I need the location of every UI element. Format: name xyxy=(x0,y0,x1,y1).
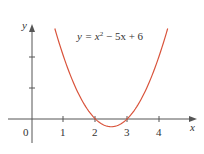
equation-lhs: y = x xyxy=(76,30,100,42)
equation-rhs: − 5x + 6 xyxy=(103,30,143,42)
y-axis-arrow-icon xyxy=(29,24,35,32)
x-tick-label-3: 3 xyxy=(124,126,130,138)
parabola-curve xyxy=(55,29,168,127)
x-tick-label-2: 2 xyxy=(92,126,98,138)
origin-label: 0 xyxy=(23,126,29,138)
parabola-chart: 0 1 2 3 4 x y y = x2 − 5x + 6 xyxy=(0,0,204,154)
y-axis-label: y xyxy=(21,19,27,31)
equation-annotation: y = x2 − 5x + 6 xyxy=(76,30,144,42)
x-tick-label-4: 4 xyxy=(156,126,162,138)
x-axis-label: x xyxy=(189,121,195,133)
x-tick-label-1: 1 xyxy=(60,126,66,138)
